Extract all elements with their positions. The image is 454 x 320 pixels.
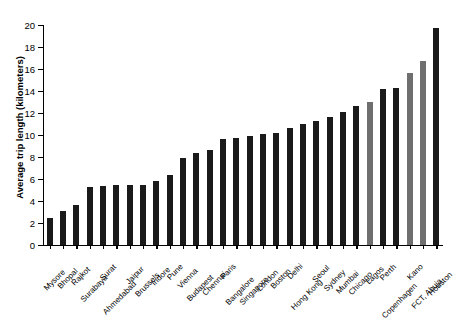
y-axis-tick-label: 20	[24, 20, 35, 31]
x-axis-label: Surat	[98, 263, 118, 283]
bar	[87, 187, 93, 245]
x-axis-tick	[156, 245, 157, 249]
x-axis-label: Mumbai	[334, 269, 360, 295]
x-axis-tick	[90, 245, 91, 249]
x-axis-label: Sydney	[322, 268, 347, 293]
y-axis-tick: 4	[38, 201, 43, 202]
y-axis-title: Average trip length (kilometers)	[14, 13, 25, 243]
y-axis-tick-label: 4	[30, 196, 35, 207]
x-axis-label: Seoul	[311, 263, 332, 284]
bar	[167, 175, 173, 245]
y-axis-tick: 16	[38, 69, 43, 70]
y-axis-tick-label: 10	[24, 130, 35, 141]
x-axis-label: Budapest	[185, 273, 215, 303]
x-axis-label: Hong Kong	[289, 277, 324, 312]
x-axis-label: Indore	[150, 265, 172, 287]
bar	[180, 158, 186, 245]
y-axis-tick: 12	[38, 113, 43, 114]
x-axis-tick	[170, 245, 171, 249]
x-axis-tick	[356, 245, 357, 249]
x-axis-label: FCT, Abuja	[410, 277, 444, 311]
x-axis-label: Houston	[427, 270, 454, 297]
x-axis-tick	[143, 245, 144, 249]
x-axis-label: Surabaya	[78, 273, 109, 304]
y-axis-tick-label: 16	[24, 64, 35, 75]
x-axis-label: Bhopal	[56, 267, 80, 291]
bar	[47, 218, 53, 246]
x-axis-label: London	[255, 268, 280, 293]
bar	[327, 117, 333, 245]
plot-area: 02468101214161820	[43, 25, 443, 245]
y-axis-tick: 8	[38, 157, 43, 158]
y-axis-tick-label: 18	[24, 42, 35, 53]
bar	[313, 121, 319, 245]
x-axis-tick	[303, 245, 304, 249]
bar	[207, 150, 213, 245]
x-axis-tick	[183, 245, 184, 249]
x-axis-tick	[343, 245, 344, 249]
x-axis-label: Vienna	[176, 267, 200, 291]
y-axis-tick-label: 0	[30, 240, 35, 251]
x-axis-tick	[396, 245, 397, 249]
bar	[407, 73, 413, 245]
x-axis-tick	[50, 245, 51, 249]
bar	[60, 211, 66, 245]
x-axis-tick	[276, 245, 277, 249]
y-axis-tick-label: 2	[30, 218, 35, 229]
bar	[100, 186, 106, 245]
y-axis-tick-label: 14	[24, 86, 35, 97]
y-axis-tick-label: 6	[30, 174, 35, 185]
bar	[353, 106, 359, 245]
x-axis-tick	[103, 245, 104, 249]
x-axis-tick	[210, 245, 211, 249]
x-axis-tick	[410, 245, 411, 249]
y-axis-tick-label: 12	[24, 108, 35, 119]
x-axis-label: Singapore	[238, 275, 270, 307]
bar	[113, 185, 119, 246]
x-axis-label: Jaipur	[124, 264, 146, 286]
x-axis-tick	[290, 245, 291, 249]
x-axis-label: Lagos	[364, 264, 386, 286]
bar	[220, 139, 226, 245]
bar	[340, 112, 346, 245]
y-axis-tick: 0	[38, 245, 43, 246]
bar	[193, 153, 199, 245]
bar	[260, 134, 266, 245]
y-axis-tick: 20	[38, 25, 43, 26]
y-axis-tick: 10	[38, 135, 43, 136]
y-axis-tick: 14	[38, 91, 43, 92]
bar	[420, 61, 426, 245]
bar	[247, 136, 253, 245]
x-axis-tick	[316, 245, 317, 249]
x-axis-tick	[236, 245, 237, 249]
bar	[273, 133, 279, 245]
bar	[287, 128, 293, 245]
x-axis-label: Chicago	[347, 270, 374, 297]
y-axis-tick: 6	[38, 179, 43, 180]
x-axis-label: Delhi	[285, 262, 304, 281]
bar	[380, 89, 386, 245]
y-axis-tick: 18	[38, 47, 43, 48]
x-axis-tick	[196, 245, 197, 249]
x-axis-tick	[250, 245, 251, 249]
x-axis-tick	[63, 245, 64, 249]
x-axis-tick	[223, 245, 224, 249]
y-axis-tick-label: 8	[30, 152, 35, 163]
x-axis-tick	[130, 245, 131, 249]
x-axis-label: Chennai	[200, 270, 227, 297]
x-axis-tick	[263, 245, 264, 249]
bar	[300, 124, 306, 245]
x-axis-label: Kano	[405, 262, 425, 282]
x-axis-label: Pune	[165, 262, 185, 282]
y-axis-tick: 2	[38, 223, 43, 224]
x-axis-label: Mysore	[42, 268, 67, 293]
bar	[393, 88, 399, 245]
bar	[127, 185, 133, 246]
bar	[153, 181, 159, 245]
x-axis-tick	[383, 245, 384, 249]
x-axis-tick	[116, 245, 117, 249]
x-axis-label: Brussels	[133, 271, 161, 299]
x-axis-tick	[76, 245, 77, 249]
bar	[233, 138, 239, 245]
x-axis-tick	[423, 245, 424, 249]
